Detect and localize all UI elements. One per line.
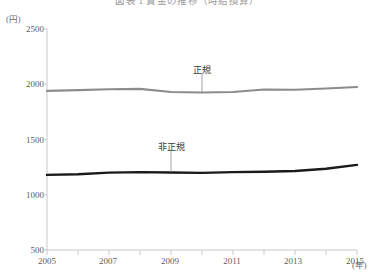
series-label-正規: 正規 bbox=[193, 63, 211, 76]
series-line-非正規 bbox=[47, 165, 357, 175]
series-label-非正規: 非正規 bbox=[158, 140, 185, 153]
plot-svg bbox=[0, 0, 375, 278]
y-axis-ticks bbox=[42, 29, 47, 250]
annotation-leader-lines bbox=[171, 73, 202, 172]
chart-container: 図表 1 賃金の推移（時給換算） (円) (年) 2500 2000 1500 … bbox=[0, 0, 375, 278]
x-axis-ticks bbox=[47, 250, 357, 255]
data-series-lines bbox=[47, 87, 357, 175]
